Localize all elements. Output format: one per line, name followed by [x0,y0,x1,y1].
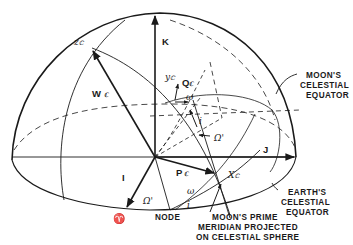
q-label: Qℂ [182,77,195,88]
i-angle-arrow [190,110,197,127]
moon-equator-leader [276,74,297,94]
x-label: Xℂ [227,170,240,180]
p-label: Pℂ [176,167,190,178]
secondary-arrows [175,84,221,212]
i-label: I [122,172,125,183]
z-label: zℂ [73,37,85,47]
svg-text:EARTH'S: EARTH'S [288,188,327,197]
vernal-equinox-symbol: ♈ [113,212,125,225]
svg-text:CELESTIAL: CELESTIAL [281,198,330,207]
omega-upper-label: ω [186,92,194,102]
earth-equator-front [12,157,296,210]
i-lower-label: i [187,200,190,210]
j-label: J [263,144,268,155]
node-label: NODE [155,213,180,222]
node-long-lower-label: Ω' [142,196,153,206]
svg-text:CELESTIAL: CELESTIAL [300,81,349,90]
svg-text:MOON'S: MOON'S [306,71,341,80]
w-label: Wℂ [92,88,110,99]
svg-text:ON CELESTIAL SPHERE: ON CELESTIAL SPHERE [196,233,300,242]
y-label: yℂ [164,72,176,82]
svg-text:EQUATOR: EQUATOR [286,208,329,217]
prime-meridian-callout: MOON'S PRIME MERIDIAN PROJECTED ON CELES… [196,213,300,242]
svg-text:EQUATOR: EQUATOR [306,91,349,100]
celestial-sphere-diagram: K J I Wℂ Pℂ Qℂ Xℂ yℂ zℂ ω i Ω' ω i Ω' ♈ … [0,0,353,245]
k-label: K [162,36,169,47]
omega-lower-label: ω [187,186,195,196]
meridian-moon [92,48,230,215]
svg-text:MERIDIAN PROJECTED: MERIDIAN PROJECTED [198,223,298,232]
meridian-arcs [61,20,230,215]
moon-equator [150,20,300,210]
meridian-left [61,20,125,200]
y-vector-arrow [175,84,178,100]
node-upper-arrow [199,135,210,136]
earth-equator-callout: EARTH'S CELESTIAL EQUATOR [281,188,330,217]
svg-text:MOON'S PRIME: MOON'S PRIME [212,213,278,222]
i-upper-label: i [199,116,202,126]
moon-equator-callout: MOON'S CELESTIAL EQUATOR [300,71,349,100]
node-long-upper-label: Ω' [213,133,224,143]
